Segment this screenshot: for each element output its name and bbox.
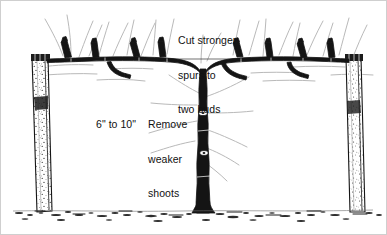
annotation-cut-spurs-line1: Cut stronger [178,35,236,47]
annotation-remove-weak-line2: weaker [148,154,187,166]
annotation-cut-spurs-line2: spurs to [178,70,236,82]
right-trellis-post [345,54,365,212]
left-trellis-post [31,54,52,212]
annotation-spacing-text: 6" to 10" [96,119,136,131]
annotation-remove-weak-line3: shoots [148,188,187,200]
pruning-diagram-figure: Cut stronger spurs to two buds 6" to 10"… [0,0,387,235]
annotation-remove-weaker-shoots: Remove weaker shoots [148,96,187,223]
annotation-spur-spacing: 6" to 10" [96,96,136,154]
annotation-remove-weak-line1: Remove [148,119,187,131]
